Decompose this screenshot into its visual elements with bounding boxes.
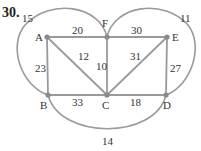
weight-A-F: 20 xyxy=(72,24,84,36)
weight-B-C: 33 xyxy=(72,96,84,108)
weight-F-E: 30 xyxy=(131,24,143,36)
vertex-A xyxy=(44,34,49,39)
weight-F-B: 15 xyxy=(22,12,34,24)
weight-E-D: 27 xyxy=(170,62,182,74)
edge-A-B xyxy=(47,37,48,95)
vertex-label-C: C xyxy=(102,99,109,111)
vertex-label-D: D xyxy=(163,99,171,111)
vertex-label-E: E xyxy=(172,31,179,43)
edge-E-C xyxy=(107,37,167,95)
vertex-E xyxy=(164,34,169,39)
weighted-graph: 203023121031273318151114 AFEBCD xyxy=(0,0,201,151)
straight-edges xyxy=(47,37,167,95)
vertex-label-F: F xyxy=(102,17,108,29)
vertex-F xyxy=(104,34,109,39)
weight-E-C: 31 xyxy=(130,50,141,62)
weight-F-C: 10 xyxy=(96,60,108,72)
edge-E-D xyxy=(166,37,167,95)
weight-A-B: 23 xyxy=(35,62,47,74)
weight-B-D: 14 xyxy=(102,135,114,147)
weight-F-D: 11 xyxy=(180,12,191,24)
vertex-D xyxy=(163,92,168,97)
vertex-B xyxy=(45,92,50,97)
vertex-label-A: A xyxy=(35,31,43,43)
vertex-label-B: B xyxy=(40,99,47,111)
vertex-C xyxy=(104,92,109,97)
weight-C-D: 18 xyxy=(130,96,142,108)
weight-A-C: 12 xyxy=(78,50,89,62)
